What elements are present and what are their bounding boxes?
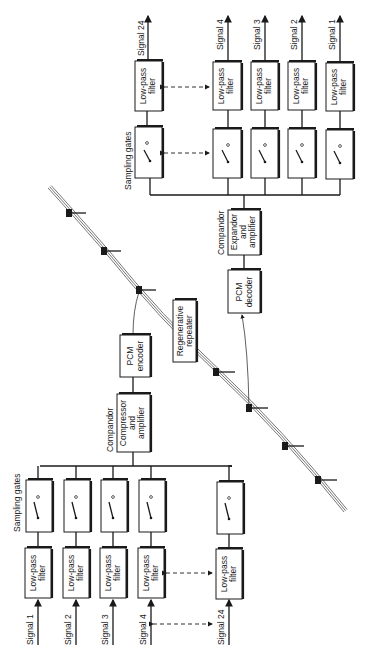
tx-signal-2-label: Signal 2	[63, 614, 73, 645]
tx-compandor-label: Compandor	[105, 407, 115, 452]
expandor-label-3: amplifier	[247, 216, 257, 248]
rx-gate-24	[135, 127, 162, 178]
pcm-encoder-label: PCM	[125, 347, 135, 366]
tx-filter-3-label-2: filter	[112, 565, 122, 581]
rx-signal-1-label: Signal 1	[327, 19, 337, 50]
rx-filter-24-label-2: filter	[147, 78, 157, 94]
encoder-to-line	[133, 292, 139, 335]
tx-gate-2	[64, 480, 90, 532]
tx-gate-3	[101, 480, 127, 532]
pcm-decoder-label-2: decoder	[244, 276, 254, 307]
tx-gate-1	[26, 480, 52, 532]
rx-filter-2-label-2: filter	[300, 78, 310, 94]
line-to-decoder	[242, 315, 249, 408]
regenerative-repeater-label-2: repeater	[184, 315, 194, 347]
rx-filter-3-label-2: filter	[263, 78, 273, 94]
rx-signal-3-label: Signal 3	[252, 19, 262, 50]
pcm-encoder-label-2: encoder	[135, 340, 145, 371]
rx-gate-4	[213, 129, 241, 178]
tx-signal-4-label: Signal 4	[138, 614, 148, 645]
receive-side	[135, 16, 354, 313]
rx-compandor-label: Compandor	[216, 210, 226, 255]
tx-filter-2-label-2: filter	[75, 565, 85, 581]
tx-signal-3-label: Signal 3	[100, 614, 110, 645]
tx-filter-4-label-2: filter	[150, 565, 160, 581]
compressor-label-3: amplifier	[136, 407, 146, 439]
tx-signal-24-label: Signal 24	[216, 609, 226, 645]
rx-filter-4-label-2: filter	[225, 78, 235, 94]
transmission-line	[48, 186, 347, 512]
rx-gate-3	[251, 129, 278, 178]
pcm-diagram: Signal 1 Signal 2 Signal 3 Signal 4 Sign…	[0, 0, 366, 660]
rx-gate-1	[326, 130, 353, 179]
tx-signal-1-label: Signal 1	[25, 614, 35, 645]
labels: Signal 1 Signal 2 Signal 3 Signal 4 Sign…	[12, 19, 348, 645]
rx-signal-2-label: Signal 2	[289, 19, 299, 50]
rx-signal-24-label: Signal 24	[136, 20, 146, 56]
rx-gate-2	[288, 129, 315, 178]
tx-sampling-gates-label: Sampling gates	[12, 473, 22, 532]
rx-signal-4-label: Signal 4	[215, 19, 225, 50]
pcm-decoder-label: PCM	[234, 283, 244, 302]
tx-gate-24	[217, 482, 243, 534]
tx-filter-1-label-2: filter	[37, 565, 47, 581]
tx-filter-24-label-2: filter	[228, 566, 238, 582]
tx-gate-4	[139, 480, 165, 532]
rx-filter-1-label-2: filter	[338, 79, 348, 95]
rx-sampling-gates-label: Sampling gates	[123, 131, 133, 190]
